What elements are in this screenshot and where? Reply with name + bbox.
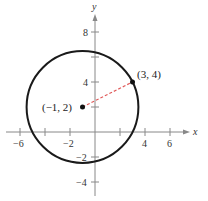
center-point-label: (−1, 2) [42,101,72,114]
x-tick-label: −6 [13,138,24,149]
x-tick-label: 6 [167,138,172,149]
y-axis-arrow-icon [93,14,98,21]
y-tick-label: −4 [76,177,87,188]
radius-segment [83,82,133,107]
y-tick-label: 4 [83,77,88,88]
edge-point-label: (3, 4) [137,68,161,81]
edge-point [130,80,135,85]
y-tick-label: 8 [83,27,88,38]
coordinate-plane: x −6 −2 4 6 y 8 4 −2 −4 (−1, 2) (3, 4) [0,0,208,201]
center-point [80,105,85,110]
x-axis-label: x [192,126,198,137]
y-axis-label: y [91,1,97,12]
x-axis-arrow-icon [183,130,190,135]
x-tick-label: −2 [63,138,74,149]
x-tick-label: 4 [142,138,147,149]
y-tick-label: −2 [76,152,87,163]
y-axis: y 8 4 −2 −4 [76,1,99,196]
